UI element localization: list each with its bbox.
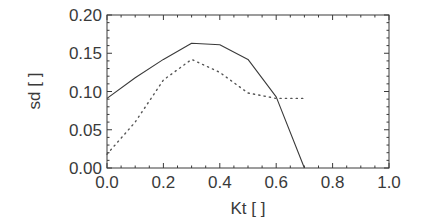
y-tick-label: 0.10 [69, 83, 102, 102]
x-tick-label: 0.4 [208, 173, 232, 192]
y-axis-label: sd [ ] [25, 73, 44, 110]
x-axis-label: Kt [ ] [231, 199, 266, 218]
x-tick-labels: 0.00.20.40.60.81.0 [95, 173, 401, 192]
series-solid-line [107, 43, 304, 168]
y-tick-labels: 0.000.050.100.150.20 [69, 6, 102, 178]
line-chart: 0.00.20.40.60.81.0 0.000.050.100.150.20 … [0, 0, 422, 222]
y-tick-label: 0.05 [69, 121, 102, 140]
x-tick-label: 0.2 [152, 173, 176, 192]
x-tick-label: 0.6 [264, 173, 288, 192]
plot-border [107, 15, 389, 168]
x-tick-label: 0.8 [321, 173, 345, 192]
x-tick-label: 1.0 [377, 173, 401, 192]
y-tick-label: 0.20 [69, 6, 102, 25]
series-layer [107, 43, 304, 168]
y-tick-label: 0.15 [69, 44, 102, 63]
series-dotted-line [107, 59, 304, 154]
y-tick-label: 0.00 [69, 159, 102, 178]
plot-frame [107, 15, 389, 168]
axis-ticks [107, 15, 389, 168]
